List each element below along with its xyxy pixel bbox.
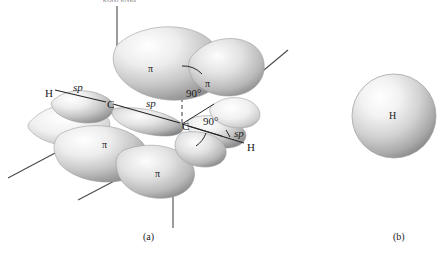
pi-label-lower-left: π: [102, 140, 107, 150]
pi-label-upper: π: [148, 64, 153, 74]
caption-panel-a: (a): [143, 232, 154, 242]
angle-label-upper: 90°: [186, 88, 201, 99]
atom-label-c-right: C: [182, 121, 189, 132]
atom-label-h-right: H: [247, 142, 255, 153]
sp-label-right: sp: [234, 128, 244, 139]
angle-label-lower: 90°: [203, 116, 218, 127]
top-nodal-plane-label: nodal plane: [103, 0, 136, 2]
pi-label-upper-right: π: [205, 79, 210, 89]
figure-canvas: [0, 0, 438, 259]
atom-label-c-left: C: [107, 99, 114, 110]
pi-label-lower-middle: π: [155, 169, 160, 179]
atom-label-h-left: H: [45, 88, 53, 99]
sp-label-left: sp: [73, 82, 83, 93]
sp-label-middle: sp: [146, 98, 156, 109]
orbital-figure: nodal plane H C C H sp sp sp π π π π 90°…: [0, 0, 438, 259]
sphere-center-label: H: [389, 111, 396, 121]
caption-panel-b: (b): [393, 232, 405, 242]
